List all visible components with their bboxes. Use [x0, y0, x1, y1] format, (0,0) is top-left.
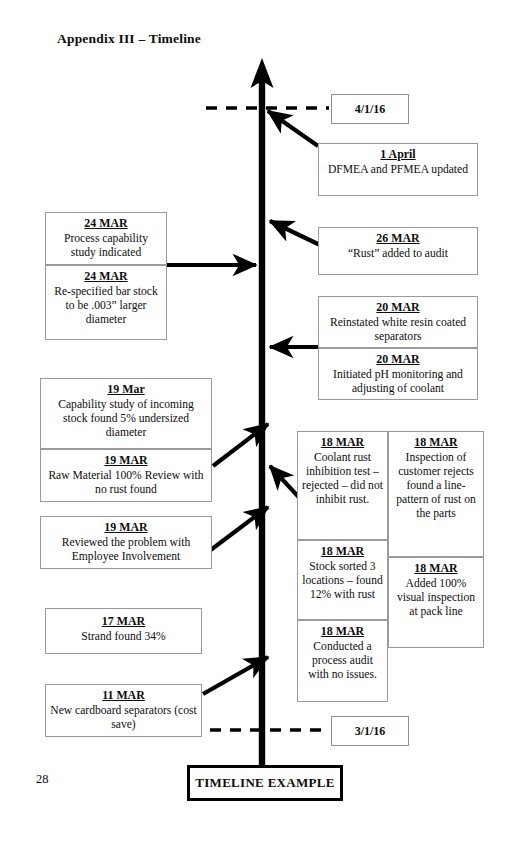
event-text: Initiated pH monitoring and adjusting of…	[323, 368, 473, 396]
event-box-mar18b[interactable]: 18 MAR Inspection of customer rejects fo…	[388, 431, 484, 557]
event-date: 24 MAR	[50, 269, 162, 284]
event-date: 1 April	[323, 147, 473, 162]
event-text: Reviewed the problem with Employee Invol…	[45, 536, 207, 564]
event-text: Conducted a process audit with no issues…	[302, 640, 383, 682]
event-box-mar26[interactable]: 26 MAR “Rust” added to audit	[318, 227, 478, 275]
event-text: Reinstated white resin coated separators	[323, 316, 473, 344]
event-date: 18 MAR	[302, 624, 383, 639]
axis-label-bottom: 3/1/16	[331, 716, 409, 746]
event-box-mar24b[interactable]: 24 MAR Re-specified bar stock to be .003…	[45, 265, 167, 340]
event-box-mar18e[interactable]: 18 MAR Conducted a process audit with no…	[297, 620, 388, 702]
event-date: 17 MAR	[50, 614, 197, 629]
event-text: New cardboard separators (cost save)	[50, 704, 197, 732]
event-text: Added 100% visual inspection at pack lin…	[393, 577, 479, 619]
event-box-mar11[interactable]: 11 MAR New cardboard separators (cost sa…	[45, 684, 202, 737]
event-box-mar18a[interactable]: 18 MAR Coolant rust inhibition test – re…	[297, 431, 388, 540]
event-box-mar19b[interactable]: 19 MAR Raw Material 100% Review with no …	[40, 449, 212, 502]
event-box-april1[interactable]: 1 April DFMEA and PFMEA updated	[318, 143, 478, 196]
event-date: 20 MAR	[323, 352, 473, 367]
event-date: 19 Mar	[45, 382, 207, 397]
event-date: 20 MAR	[323, 300, 473, 315]
event-date: 19 MAR	[45, 453, 207, 468]
event-box-mar19c[interactable]: 19 MAR Reviewed the problem with Employe…	[40, 516, 212, 569]
connector-mar11	[203, 657, 268, 694]
event-box-mar19a[interactable]: 19 Mar Capability study of incoming stoc…	[40, 378, 212, 449]
event-text: Raw Material 100% Review with no rust fo…	[45, 469, 207, 497]
event-text: Strand found 34%	[50, 630, 197, 644]
timeline-caption: TIMELINE EXAMPLE	[187, 765, 343, 801]
event-date: 24 MAR	[50, 216, 162, 231]
connector-april1	[268, 111, 318, 146]
event-box-mar18d[interactable]: 18 MAR Added 100% visual inspection at p…	[388, 557, 484, 648]
event-box-mar20b[interactable]: 20 MAR Initiated pH monitoring and adjus…	[318, 348, 478, 400]
event-date: 18 MAR	[393, 435, 479, 450]
event-box-mar18c[interactable]: 18 MAR Stock sorted 3 locations – found …	[297, 540, 388, 620]
event-text: Stock sorted 3 locations – found 12% wit…	[302, 560, 383, 602]
event-box-mar24a[interactable]: 24 MAR Process capability study indicate…	[45, 212, 167, 265]
event-date: 11 MAR	[50, 688, 197, 703]
axis-label-top: 4/1/16	[331, 94, 409, 124]
event-text: Process capability study indicated	[50, 232, 162, 260]
event-text: Re-specified bar stock to be .003” large…	[50, 285, 162, 327]
event-box-mar20a[interactable]: 20 MAR Reinstated white resin coated sep…	[318, 296, 478, 348]
timeline-diagram-page: Appendix III – Timeline 28	[0, 0, 505, 864]
event-date: 19 MAR	[45, 520, 207, 535]
event-box-mar17[interactable]: 17 MAR Strand found 34%	[45, 608, 202, 654]
event-text: Inspection of customer rejects found a l…	[393, 451, 479, 522]
event-date: 18 MAR	[393, 561, 479, 576]
event-date: 18 MAR	[302, 435, 383, 450]
event-date: 18 MAR	[302, 544, 383, 559]
event-text: Capability study of incoming stock found…	[45, 398, 207, 440]
timeline-axis	[251, 58, 274, 790]
event-date: 26 MAR	[323, 231, 473, 246]
event-text: “Rust” added to audit	[323, 247, 473, 261]
event-text: DFMEA and PFMEA updated	[323, 163, 473, 177]
connector-mar26	[270, 221, 320, 245]
event-text: Coolant rust inhibition test – rejected …	[302, 451, 383, 508]
